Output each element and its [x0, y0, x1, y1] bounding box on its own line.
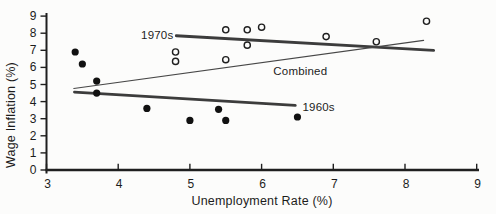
- x-tick-label: 3: [44, 177, 51, 191]
- y-tick-label: 7: [30, 43, 37, 57]
- data-point-1970s: [373, 39, 379, 45]
- annotation-1970s-label: 1970s: [141, 29, 173, 41]
- data-point-1960s: [222, 117, 229, 124]
- data-point-1970s: [172, 49, 178, 55]
- trend-line-1970s: [176, 36, 433, 51]
- phillips-curve-figure: 012345678934567891970sCombined1960s Unem…: [0, 0, 496, 214]
- data-point-1970s: [223, 27, 229, 33]
- data-point-1960s: [186, 117, 193, 124]
- data-point-1970s: [223, 57, 229, 63]
- data-point-1960s: [79, 60, 86, 67]
- y-tick-label: 2: [30, 129, 37, 143]
- annotation-combined-label: Combined: [273, 65, 327, 77]
- y-axis-title: Wage Inflation (%): [4, 62, 18, 168]
- data-point-1970s: [244, 27, 250, 33]
- y-tick-label: 9: [30, 9, 37, 23]
- data-point-1960s: [143, 105, 150, 112]
- x-tick-label: 9: [474, 177, 481, 191]
- data-point-1970s: [423, 18, 429, 24]
- data-point-1970s: [172, 58, 178, 64]
- data-point-1960s: [215, 106, 222, 113]
- y-tick-label: 6: [30, 60, 37, 74]
- data-point-1960s: [294, 113, 301, 120]
- data-point-1970s: [259, 24, 265, 30]
- x-tick-label: 7: [331, 177, 338, 191]
- data-point-1970s: [244, 42, 250, 48]
- y-tick-label: 4: [30, 95, 37, 109]
- data-point-1960s: [93, 89, 100, 96]
- x-axis-title: Unemployment Rate (%): [191, 194, 332, 208]
- annotation-1960s-label: 1960s: [302, 101, 334, 113]
- x-tick-label: 4: [116, 177, 123, 191]
- data-point-1970s: [323, 34, 329, 40]
- x-tick-label: 5: [188, 177, 195, 191]
- y-tick-label: 8: [30, 26, 37, 40]
- trend-line-1960s: [74, 92, 295, 105]
- x-tick-label: 6: [259, 177, 266, 191]
- y-tick-label: 1: [30, 146, 37, 160]
- plot-area: 012345678934567891970sCombined1960s: [30, 9, 482, 191]
- y-tick-label: 3: [30, 112, 37, 126]
- data-point-1960s: [72, 48, 79, 55]
- data-point-1960s: [93, 77, 100, 84]
- x-tick-label: 8: [403, 177, 410, 191]
- y-tick-label: 5: [30, 78, 37, 92]
- scatter-chart: 012345678934567891970sCombined1960s Unem…: [0, 0, 496, 214]
- y-tick-label: 0: [30, 163, 37, 177]
